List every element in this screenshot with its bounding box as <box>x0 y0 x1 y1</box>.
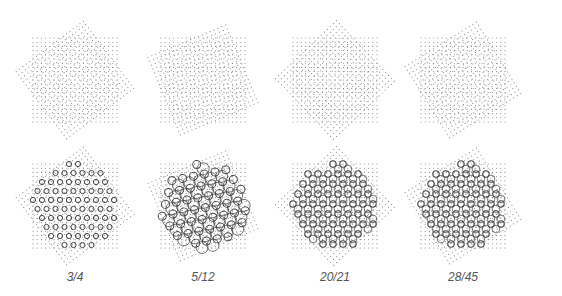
dot-overlay-panel-4 <box>403 20 523 140</box>
dot-overlay-panel-1 <box>15 20 135 140</box>
dot-overlay-panel-3 <box>275 20 395 140</box>
coincidence-pattern-panel-2 <box>143 146 263 266</box>
dot-overlay-panel-2 <box>143 20 263 140</box>
coincidence-pattern-panel-4 <box>403 146 523 266</box>
ratio-label-3: 20/21 <box>295 270 375 284</box>
ratio-label-4: 28/45 <box>423 270 503 284</box>
ratio-label-1: 3/4 <box>35 270 115 284</box>
coincidence-pattern-panel-3 <box>275 146 395 266</box>
ratio-label-2: 5/12 <box>163 270 243 284</box>
coincidence-pattern-panel-1 <box>15 146 135 266</box>
